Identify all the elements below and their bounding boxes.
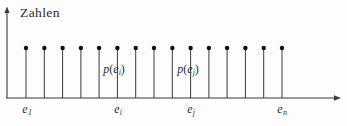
stem-marker-dot	[134, 46, 138, 50]
stem-marker-dot	[60, 46, 64, 50]
stem-marker-dot	[243, 46, 247, 50]
x-tick-label-en: en	[277, 102, 286, 117]
annotation-p-ej: p(ej)	[177, 62, 199, 77]
annotation-p-ei: p(ei)	[103, 62, 125, 77]
stem-marker-dot	[170, 46, 174, 50]
x-tick-label-ei: ei	[114, 102, 122, 117]
stem-marker-dot	[207, 46, 211, 50]
stem-marker-dot	[79, 46, 83, 50]
stem-marker-dot	[262, 46, 266, 50]
stem-marker-dot	[225, 46, 229, 50]
stem-marker-dot	[152, 46, 156, 50]
y-axis-title: Zahlen	[20, 5, 60, 21]
x-tick-label-ej: ej	[187, 102, 195, 117]
stem-marker-dot	[115, 46, 119, 50]
stem-marker-dot	[97, 46, 101, 50]
stem-marker-dot	[24, 46, 28, 50]
stem-marker-dot	[42, 46, 46, 50]
arrow-right-icon	[334, 95, 341, 100]
stem-marker-dot	[280, 46, 284, 50]
arrow-up-icon	[4, 7, 9, 14]
stems-group	[24, 46, 284, 98]
stem-plot-figure: Zahlen p(ei) p(ej) e1 ei ej en	[0, 0, 347, 126]
stem-marker-dot	[188, 46, 192, 50]
x-tick-label-e1: e1	[22, 102, 31, 117]
